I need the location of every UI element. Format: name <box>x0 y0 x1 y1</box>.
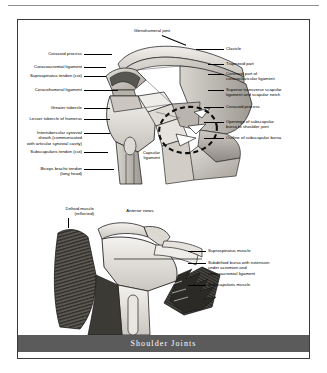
figure-title-bar: Shoulder Joints <box>18 335 309 352</box>
label-anterior-views: Anterior views <box>112 208 168 213</box>
top-rule <box>8 5 319 6</box>
label-subscapularis-muscle: Subscapularis muscle <box>208 282 294 287</box>
label-deltoid-muscle: Deltoid muscle (reflected) <box>46 206 94 217</box>
lower-panel: Deltoid muscle (reflected) Anterior view… <box>18 20 309 358</box>
figure-frame: Glenohumeral joint Capsular ligament Cor… <box>17 19 310 359</box>
leader-supraspinatus-muscle <box>188 251 206 252</box>
leader-subdeltoid-bursa <box>188 263 206 264</box>
label-subdeltoid-bursa: Subdeltoid bursa with extension under ac… <box>208 260 300 276</box>
leader-subscapularis-muscle <box>188 285 206 286</box>
figure-title: Shoulder Joints <box>130 339 196 348</box>
leader-deltoid-muscle <box>68 218 69 228</box>
label-supraspinatus-muscle: Supraspinatus muscle <box>208 248 294 253</box>
